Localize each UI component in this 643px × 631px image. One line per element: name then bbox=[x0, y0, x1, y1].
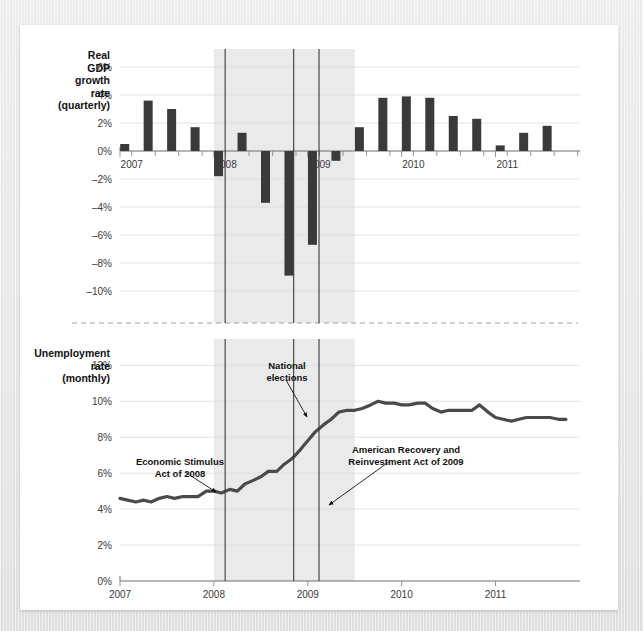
american-recovery-label-line: Reinvestment Act of 2009 bbox=[348, 456, 463, 467]
gdp-bar bbox=[449, 116, 458, 151]
gdp-side-label-line: growth bbox=[75, 74, 110, 86]
national-elections-label-line: National bbox=[268, 360, 305, 371]
gdp-ytick-label: 0% bbox=[98, 146, 113, 157]
gdp-bar bbox=[238, 133, 247, 151]
gdp-side-label-line: GDP bbox=[87, 62, 110, 74]
figure-card: 6%4%2%0%–2%–4%–6%–8%–10%2007200820092010… bbox=[20, 25, 618, 610]
gdp-ytick-label: –2% bbox=[92, 174, 112, 185]
unemp-ytick-label: 8% bbox=[98, 432, 113, 443]
gdp-bar bbox=[496, 145, 505, 151]
gdp-bar bbox=[331, 151, 340, 161]
unemp-ytick-label: 0% bbox=[98, 576, 113, 587]
gdp-bar bbox=[519, 133, 528, 151]
unemp-ytick-label: 6% bbox=[98, 468, 113, 479]
american-recovery-label-line: American Recovery and bbox=[352, 444, 460, 455]
gdp-bar bbox=[167, 109, 176, 151]
gdp-ytick-label: –4% bbox=[92, 202, 112, 213]
gdp-xtick-label: 2010 bbox=[402, 159, 425, 170]
gdp-bar bbox=[378, 98, 387, 151]
recession-band-top bbox=[214, 49, 355, 323]
gdp-bar bbox=[355, 127, 364, 151]
gdp-ytick-label: 2% bbox=[98, 118, 113, 129]
unemp-ytick-label: 10% bbox=[92, 396, 112, 407]
gdp-side-label-line: rate bbox=[91, 87, 110, 99]
unemp-xtick-label: 2010 bbox=[391, 589, 414, 600]
gdp-xtick-label: 2007 bbox=[121, 159, 144, 170]
gdp-bar bbox=[261, 151, 270, 203]
gdp-ytick-label: –6% bbox=[92, 230, 112, 241]
gdp-bar bbox=[472, 119, 481, 151]
gdp-bar bbox=[214, 151, 223, 176]
gdp-bar bbox=[543, 126, 552, 151]
unemp-xtick-label: 2011 bbox=[485, 589, 507, 600]
gdp-side-label-line: (quarterly) bbox=[58, 99, 110, 111]
unemp-ytick-label: 4% bbox=[98, 504, 113, 515]
unemp-side-label-line: Unemployment bbox=[34, 347, 110, 359]
gdp-bar bbox=[120, 144, 129, 151]
gdp-bar bbox=[308, 151, 317, 245]
gdp-side-label: RealGDPgrowthrate(quarterly) bbox=[58, 49, 110, 111]
unemployment-side-label: Unemploymentrate(monthly) bbox=[34, 347, 110, 384]
unemp-xtick-label: 2008 bbox=[203, 589, 226, 600]
gdp-side-label-line: Real bbox=[88, 49, 110, 61]
unemp-xtick-label: 2007 bbox=[109, 589, 132, 600]
economic-stimulus-label-line: Economic Stimulus bbox=[136, 456, 224, 467]
gdp-bar bbox=[191, 127, 200, 151]
gdp-xtick-label: 2011 bbox=[496, 159, 518, 170]
gdp-bar bbox=[425, 98, 434, 151]
economic-stimulus-label-line: Act of 2008 bbox=[155, 468, 206, 479]
gdp-ytick-label: –10% bbox=[86, 286, 112, 297]
gdp-ytick-label: –8% bbox=[92, 258, 112, 269]
gdp-bar bbox=[284, 151, 293, 276]
unemp-side-label-line: (monthly) bbox=[62, 372, 110, 384]
unemp-side-label-line: rate bbox=[91, 360, 110, 372]
unemp-xtick-label: 2009 bbox=[297, 589, 320, 600]
unemp-ytick-label: 2% bbox=[98, 540, 113, 551]
gdp-bar bbox=[144, 101, 153, 151]
economic-charts-figure: 6%4%2%0%–2%–4%–6%–8%–10%2007200820092010… bbox=[20, 25, 618, 610]
gdp-bar bbox=[402, 96, 411, 151]
